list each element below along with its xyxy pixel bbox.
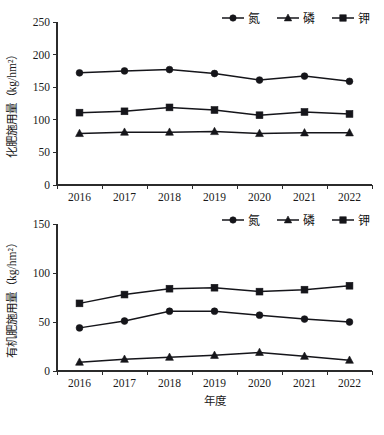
data-point	[256, 77, 263, 84]
x-tick-label: 2022	[338, 191, 361, 203]
y-axis-title: 有机肥施用量（kg/hm²）	[5, 237, 19, 358]
y-tick-label: 200	[33, 49, 51, 61]
series-钾	[76, 104, 353, 119]
square-marker	[340, 217, 346, 223]
data-point	[121, 291, 128, 298]
x-tick-label: 2019	[203, 377, 226, 389]
x-tick-label: 2022	[338, 377, 361, 389]
data-point	[301, 286, 308, 293]
x-tick-label: 2017	[113, 191, 136, 203]
data-point	[166, 104, 173, 111]
data-point	[256, 112, 263, 119]
data-point	[166, 66, 173, 73]
legend-label: 磷	[303, 213, 315, 228]
data-point	[76, 69, 83, 76]
fertilizer-application-figure: 0501001502002502016201720182019202020212…	[0, 0, 384, 435]
data-point	[121, 68, 128, 75]
data-point	[256, 288, 263, 295]
series-磷	[76, 348, 354, 365]
x-tick-label: 2016	[68, 377, 91, 389]
data-point	[301, 316, 308, 323]
legend-label: 氮	[248, 11, 260, 26]
axis-lines	[57, 22, 372, 185]
data-point	[211, 107, 218, 114]
data-point	[76, 109, 83, 116]
legend-label: 钾	[358, 12, 370, 26]
y-tick-label: 250	[33, 16, 51, 28]
y-tick-label: 150	[33, 81, 51, 93]
data-point	[346, 78, 353, 85]
data-point	[346, 282, 353, 289]
x-tick-label: 2021	[293, 377, 316, 389]
series-氮	[76, 308, 353, 331]
x-tick-label: 2017	[113, 377, 136, 389]
y-tick-label: 0	[44, 365, 50, 377]
series-磷	[76, 127, 354, 136]
legend-label: 氮	[248, 213, 260, 228]
square-marker	[340, 15, 346, 21]
series-氮	[76, 66, 353, 85]
x-tick-label: 2016	[68, 191, 91, 203]
x-tick-label: 2019	[203, 191, 226, 203]
x-tick-label: 2018	[158, 377, 181, 389]
chemical-fertilizer-line-chart: 0501001502002502016201720182019202020212…	[0, 0, 384, 208]
legend-label: 磷	[303, 11, 315, 26]
data-point	[211, 284, 218, 291]
x-tick-label: 2020	[248, 191, 271, 203]
data-point	[211, 70, 218, 77]
y-tick-label: 100	[33, 267, 51, 279]
y-tick-label: 100	[33, 114, 51, 126]
chart-legend: 氮磷钾	[222, 11, 370, 26]
y-tick-label: 50	[39, 316, 51, 328]
data-point	[211, 308, 218, 315]
data-point	[301, 73, 308, 80]
circle-marker	[230, 15, 236, 21]
chart-legend: 氮磷钾	[222, 213, 370, 228]
circle-marker	[230, 217, 236, 223]
axis-lines	[57, 224, 372, 371]
y-axis-title: 化肥施用量（kg/hm²）	[5, 49, 19, 159]
legend-label: 钾	[358, 214, 370, 228]
data-point	[121, 108, 128, 115]
data-point	[166, 285, 173, 292]
y-tick-label: 150	[33, 218, 51, 230]
data-point	[346, 319, 353, 326]
data-point	[256, 312, 263, 319]
data-point	[76, 324, 83, 331]
data-point	[256, 348, 264, 355]
organic-fertilizer-line-chart: 0501001502016201720182019202020212022有机肥…	[0, 208, 384, 435]
data-point	[301, 109, 308, 116]
x-tick-label: 2020	[248, 377, 271, 389]
data-point	[166, 308, 173, 315]
chart-panel-chemical-fertilizer: 0501001502002502016201720182019202020212…	[0, 0, 384, 208]
chart-panel-organic-fertilizer: 0501001502016201720182019202020212022有机肥…	[0, 208, 384, 435]
series-钾	[76, 282, 353, 306]
x-tick-label: 2018	[158, 191, 181, 203]
x-tick-label: 2021	[293, 191, 316, 203]
y-tick-label: 50	[39, 146, 51, 158]
y-tick-label: 0	[44, 179, 50, 191]
data-point	[76, 300, 83, 307]
x-axis-title: 年度	[204, 394, 227, 407]
data-point	[346, 111, 353, 118]
data-point	[121, 318, 128, 325]
